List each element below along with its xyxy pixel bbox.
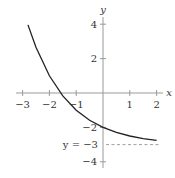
function-graph: −3 −2 −1 1 2 4 2 −2 −4 x y y = −3 xyxy=(0,0,175,178)
x-tick-label: 1 xyxy=(127,99,133,110)
y-tick-label: −4 xyxy=(82,156,97,167)
asymptote-label: y = −3 xyxy=(62,139,98,150)
x-tick-label: −3 xyxy=(15,99,30,110)
x-tick-label: −1 xyxy=(69,99,84,110)
y-tick-label: 2 xyxy=(91,53,97,64)
x-tick-label: −2 xyxy=(42,99,57,110)
y-tick-label: −2 xyxy=(82,122,97,133)
x-tick-label: 2 xyxy=(153,99,159,110)
y-tick-label: 4 xyxy=(91,19,97,30)
x-axis-label: x xyxy=(166,87,172,98)
y-axis-label: y xyxy=(99,4,106,15)
